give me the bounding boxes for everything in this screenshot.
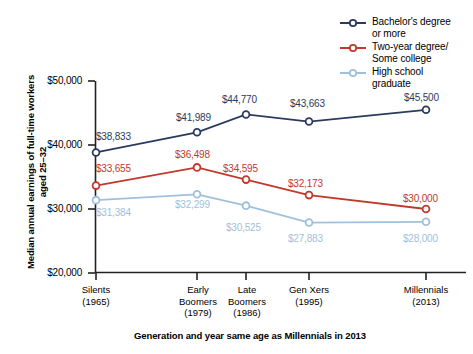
point-label-bachelors-early-boomers: $41,989: [176, 112, 211, 123]
point-label-highschool-late-boomers: $30,525: [226, 222, 261, 233]
data-point-bachelors-0[interactable]: [93, 149, 100, 156]
point-label-highschool-millennials: $28,000: [403, 233, 438, 244]
y-tick-label-40000: $40,000: [24, 139, 82, 150]
point-label-bachelors-late-boomers: $44,770: [222, 94, 257, 105]
legend-marker-highschool: [350, 70, 356, 76]
point-label-bachelors-silents: $38,833: [96, 131, 131, 142]
point-label-twoyear-gen-xers: $32,173: [288, 178, 323, 189]
x-tick-label-millennials: Millennials (2013): [386, 284, 466, 307]
point-label-highschool-early-boomers: $32,299: [175, 199, 210, 210]
data-point-bachelors-3[interactable]: [306, 118, 313, 125]
y-tick-label-50000: $50,000: [24, 75, 82, 86]
y-axis-title: Median annual earnings of full-time work…: [25, 67, 49, 277]
data-point-bachelors-4[interactable]: [423, 106, 430, 113]
point-label-twoyear-silents: $33,655: [96, 163, 131, 174]
point-label-bachelors-gen-xers: $43,663: [290, 98, 325, 109]
point-label-twoyear-early-boomers: $36,498: [175, 149, 210, 160]
x-tick-label-gen-xers: Gen Xers (1995): [269, 284, 349, 307]
data-point-highschool-0[interactable]: [93, 197, 100, 204]
data-point-highschool-2[interactable]: [243, 202, 250, 209]
chart-container: Median annual earnings of full-time work…: [0, 0, 473, 354]
legend-marker-twoyear: [350, 45, 356, 51]
y-tick-label-20000: $20,000: [24, 267, 82, 278]
point-label-highschool-gen-xers: $27,883: [288, 233, 323, 244]
data-point-highschool-1[interactable]: [194, 191, 201, 198]
data-point-twoyear-1[interactable]: [194, 164, 201, 171]
series-line-highschool: [96, 194, 426, 222]
series-line-bachelors: [96, 110, 426, 153]
point-label-twoyear-late-boomers: $34,595: [223, 163, 258, 174]
legend-label-bachelors[interactable]: Bachelor's degree or more: [372, 16, 451, 39]
data-point-bachelors-2[interactable]: [243, 111, 250, 118]
x-axis-title: Generation and year same age as Millenni…: [70, 330, 430, 341]
legend-label-twoyear[interactable]: Two-year degree/ Some college: [372, 41, 448, 64]
point-label-twoyear-millennials: $30,000: [403, 193, 438, 204]
data-point-twoyear-3[interactable]: [306, 192, 313, 199]
series-line-twoyear: [96, 167, 426, 209]
data-point-highschool-3[interactable]: [306, 219, 313, 226]
data-point-highschool-4[interactable]: [423, 218, 430, 225]
legend-swatches: [340, 20, 366, 76]
x-tick-label-silents: Silents (1965): [56, 284, 136, 307]
y-tick-label-30000: $30,000: [24, 203, 82, 214]
series-layer: [93, 106, 430, 226]
data-point-twoyear-2[interactable]: [243, 176, 250, 183]
legend-label-highschool[interactable]: High school graduate: [372, 66, 423, 89]
legend-marker-bachelors: [350, 20, 356, 26]
data-point-bachelors-1[interactable]: [194, 129, 201, 136]
point-label-highschool-silents: $31,384: [96, 207, 131, 218]
data-point-twoyear-4[interactable]: [423, 206, 430, 213]
data-point-twoyear-0[interactable]: [93, 182, 100, 189]
point-label-bachelors-millennials: $45,500: [404, 92, 439, 103]
